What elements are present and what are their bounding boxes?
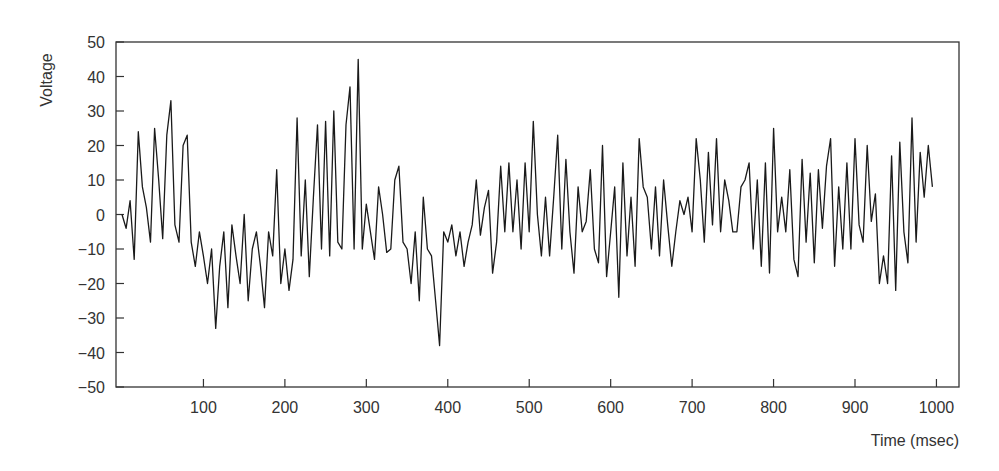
y-tick-label: 30 <box>87 103 105 120</box>
x-tick-label: 900 <box>842 399 869 416</box>
y-tick-label: −30 <box>78 310 105 327</box>
x-axis-ticks: 1002003004005006007008009001000 <box>190 379 954 416</box>
y-tick-label: −50 <box>78 379 105 396</box>
y-tick-label: 0 <box>96 207 105 224</box>
y-axis-ticks: −50−40−30−20−1001020304050 <box>78 34 124 396</box>
x-tick-label: 600 <box>597 399 624 416</box>
voltage-signal-line <box>122 59 932 345</box>
x-tick-label: 400 <box>434 399 461 416</box>
y-tick-label: 40 <box>87 69 105 86</box>
x-tick-label: 100 <box>190 399 217 416</box>
y-tick-label: −10 <box>78 241 105 258</box>
x-tick-label: 1000 <box>919 399 955 416</box>
x-axis-title: Time (msec) <box>871 432 959 449</box>
voltage-time-chart: −50−40−30−20−1001020304050 1002003004005… <box>0 0 999 471</box>
y-tick-label: 50 <box>87 34 105 51</box>
x-tick-label: 700 <box>679 399 706 416</box>
y-axis-title: Voltage <box>38 53 55 106</box>
x-tick-label: 200 <box>272 399 299 416</box>
y-tick-label: 20 <box>87 138 105 155</box>
x-tick-label: 500 <box>516 399 543 416</box>
y-tick-label: −20 <box>78 276 105 293</box>
y-tick-label: −40 <box>78 345 105 362</box>
plot-area: −50−40−30−20−1001020304050 1002003004005… <box>78 34 959 416</box>
x-tick-label: 300 <box>353 399 380 416</box>
y-tick-label: 10 <box>87 172 105 189</box>
x-tick-label: 800 <box>760 399 787 416</box>
